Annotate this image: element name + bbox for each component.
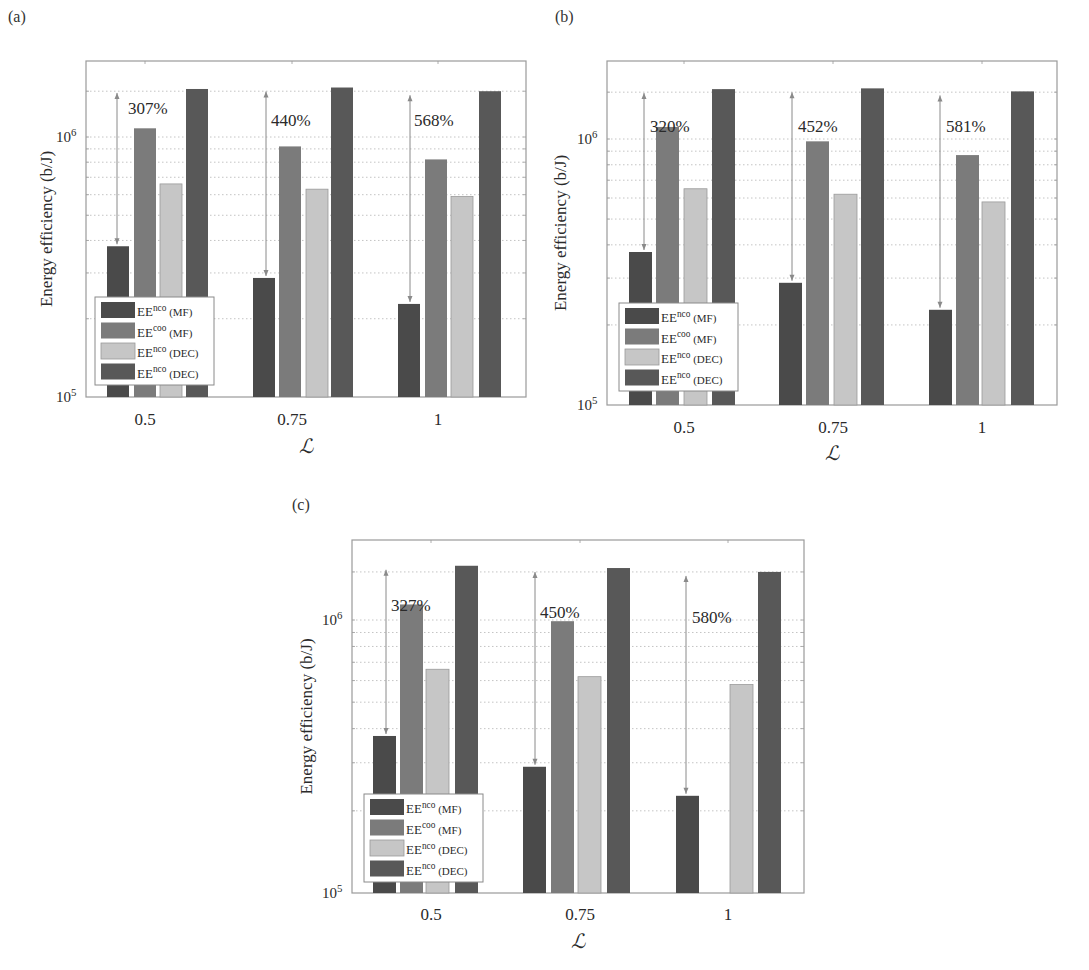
y-axis-label: Energy efficiency (b/J) — [297, 638, 316, 794]
bar-ee-nco-mf--1 — [676, 796, 699, 893]
chart-panel-c: 327%450%580%105106Energy efficiency (b/J… — [0, 0, 1089, 970]
annotation-percent: 580% — [692, 608, 732, 627]
bar-ee-coo-mf--0.75 — [551, 621, 574, 893]
bar-ee-nco-dec--0.75 — [578, 677, 601, 893]
y-tick-label-1e6: 106 — [322, 609, 343, 628]
legend-swatch — [370, 820, 404, 836]
legend-swatch — [370, 861, 404, 877]
x-axis-label: ℒ — [571, 930, 586, 952]
bar-ee-nco-dec--1 — [758, 572, 781, 893]
legend-swatch — [370, 840, 404, 856]
x-tick-label: 1 — [724, 905, 733, 924]
annotation-percent: 327% — [391, 596, 431, 615]
annotation-percent: 450% — [540, 603, 580, 622]
legend: EEnco (MF)EEcoo (MF)EEnco (DEC)EEnco (DE… — [364, 794, 483, 882]
x-tick-label: 0.75 — [565, 905, 595, 924]
bar-ee-nco-dec--1 — [730, 685, 753, 893]
bar-ee-nco-mf--0.75 — [523, 767, 546, 893]
x-tick-label: 0.5 — [420, 905, 441, 924]
legend-swatch — [370, 799, 404, 815]
bar-ee-nco-dec--0.75 — [607, 568, 630, 893]
figure: (a) (b) (c) 307%440%568%105106Energy eff… — [0, 0, 1089, 970]
y-tick-label-1e5: 105 — [322, 882, 342, 901]
